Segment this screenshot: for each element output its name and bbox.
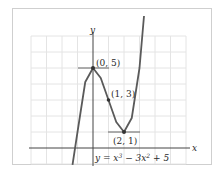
x-axis-label: x [192,143,197,153]
point-max [91,66,95,70]
y-axis-label: y [89,25,96,35]
min-point-label: (2, 1) [113,136,137,146]
max-point-label: (0, 5) [96,58,120,68]
point-min [122,130,126,134]
inflection-point-label: (1, 3) [111,89,135,99]
equation-label: y = x3 − 3x2 + 5 [94,152,169,163]
cubic-graph: y x (0, 5) (1, 3) (2, 1) y = x3 − 3x2 + … [0,0,218,179]
point-inflection [107,98,111,102]
